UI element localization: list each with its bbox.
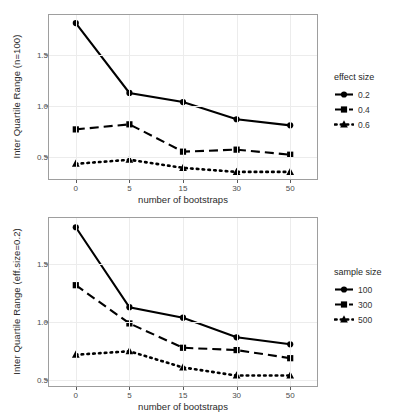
legend-key-triangle-icon [334, 117, 354, 132]
chart-panel-top: Inter Quartile Range (n=100) 0.51.01.5 0… [0, 0, 412, 209]
legend-label: 300 [358, 300, 372, 310]
x-tick-mark [237, 180, 238, 183]
legend-top: effect size 0.20.40.6 [334, 72, 374, 132]
x-tick-mark [290, 180, 291, 183]
legend-key-circle-icon [334, 282, 354, 297]
x-tick-label: 0 [74, 391, 78, 400]
x-tick-mark [129, 387, 130, 390]
legend-items-top: 0.20.40.6 [334, 87, 374, 132]
figure-container: Inter Quartile Range (n=100) 0.51.01.5 0… [0, 0, 412, 418]
legend-label: 500 [358, 315, 372, 325]
x-tick-label: 50 [286, 391, 295, 400]
gridline-x-3 [237, 15, 238, 179]
legend-label: 0.4 [358, 105, 370, 115]
x-tick-label: 0 [74, 184, 78, 193]
y-axis-ticks-top: 0.51.01.5 [22, 14, 48, 180]
x-tick-mark [76, 387, 77, 390]
gridline-x-0 [76, 218, 77, 386]
gridline-x-1 [129, 15, 130, 179]
legend-item-0.6[interactable]: 0.6 [334, 117, 374, 132]
data-point-square [341, 106, 347, 112]
x-tick-label: 5 [127, 184, 131, 193]
legend-item-500[interactable]: 500 [334, 312, 382, 327]
legend-label: 0.2 [358, 90, 370, 100]
x-tick-label: 15 [179, 184, 188, 193]
gridline-x-1 [129, 218, 130, 386]
legend-label: 0.6 [358, 120, 370, 130]
data-point-circle [341, 91, 347, 97]
gridline-x-3 [237, 218, 238, 386]
gridline-x-4 [290, 218, 291, 386]
x-tick-mark [129, 180, 130, 183]
x-tick-label: 15 [179, 391, 188, 400]
legend-item-100[interactable]: 100 [334, 282, 382, 297]
gridline-x-0 [76, 15, 77, 179]
x-tick-mark [183, 180, 184, 183]
gridline-x-2 [183, 15, 184, 179]
legend-title-bottom: sample size [334, 267, 382, 277]
y-axis-ticks-bottom: 0.51.01.5 [22, 217, 48, 387]
legend-title-top: effect size [334, 72, 374, 82]
x-tick-mark [290, 387, 291, 390]
x-tick-label: 30 [232, 184, 241, 193]
data-point-circle [341, 286, 347, 292]
legend-key-circle-icon [334, 87, 354, 102]
legend-items-bottom: 100300500 [334, 282, 382, 327]
legend-key-triangle-icon [334, 312, 354, 327]
legend-key-square-icon [334, 102, 354, 117]
plot-area-top [48, 14, 318, 180]
gridline-x-2 [183, 218, 184, 386]
x-axis-title-top: number of bootstraps [48, 194, 318, 205]
chart-panel-bottom: Inter Quartile Range (eff.size=0.2) 0.51… [0, 209, 412, 418]
data-point-square [341, 301, 347, 307]
x-tick-label: 5 [127, 391, 131, 400]
legend-item-0.4[interactable]: 0.4 [334, 102, 374, 117]
x-axis-title-bottom: number of bootstraps [48, 401, 318, 412]
x-tick-label: 30 [232, 391, 241, 400]
legend-bottom: sample size 100300500 [334, 267, 382, 327]
x-tick-mark [183, 387, 184, 390]
legend-item-0.2[interactable]: 0.2 [334, 87, 374, 102]
legend-key-square-icon [334, 297, 354, 312]
x-tick-mark [76, 180, 77, 183]
x-tick-mark [237, 387, 238, 390]
plot-area-bottom [48, 217, 318, 387]
legend-item-300[interactable]: 300 [334, 297, 382, 312]
x-tick-label: 50 [286, 184, 295, 193]
gridline-x-4 [290, 15, 291, 179]
legend-label: 100 [358, 285, 372, 295]
